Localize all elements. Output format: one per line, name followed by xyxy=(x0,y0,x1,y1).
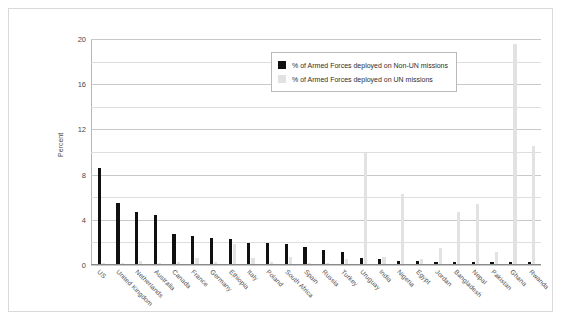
x-axis-label-cell: France xyxy=(186,267,205,321)
bar-un xyxy=(251,258,254,264)
bar-un xyxy=(102,263,105,264)
x-axis-label-cell: Ghana xyxy=(505,267,524,321)
x-axis-tick-label: Italy xyxy=(246,268,260,282)
x-axis-label-cell: Nepal xyxy=(467,267,486,321)
x-axis-tick-label: India xyxy=(378,268,393,283)
legend-item-un: % of Armed Forces deployed on UN mission… xyxy=(278,72,448,86)
x-axis-tick-label: US xyxy=(96,268,108,280)
x-axis-label-cell: Bangladesh xyxy=(448,267,467,321)
bar-non-un xyxy=(416,261,419,264)
bar-group xyxy=(111,39,130,264)
bar-un xyxy=(158,263,161,264)
x-axis-label-cell: US xyxy=(92,267,111,321)
bar-group xyxy=(503,39,522,264)
legend-swatch-un-icon xyxy=(278,75,286,83)
bar-non-un xyxy=(509,262,512,264)
bar-group xyxy=(167,39,186,264)
bar-un xyxy=(195,258,198,264)
bar-non-un xyxy=(98,168,101,264)
x-axis-label-cell: Turkey xyxy=(336,267,355,321)
bar-non-un xyxy=(116,203,119,264)
y-axis-tick-label: 16 xyxy=(78,80,86,89)
y-axis-tick-label: 8 xyxy=(82,170,86,179)
bar-group xyxy=(129,39,148,264)
bar-group xyxy=(92,39,111,264)
bar-un xyxy=(270,262,273,264)
bar-non-un xyxy=(341,252,344,264)
bar-un xyxy=(532,146,535,264)
bar-non-un xyxy=(472,262,475,264)
bar-un xyxy=(326,263,329,264)
bar-un xyxy=(382,257,385,264)
bar-group xyxy=(186,39,205,264)
bar-non-un xyxy=(266,243,269,264)
bar-non-un xyxy=(303,247,306,264)
bar-un xyxy=(121,263,124,264)
x-axis-label-cell: Canada xyxy=(167,267,186,321)
bar-un xyxy=(457,212,460,264)
bar-un xyxy=(139,261,142,264)
bar-non-un xyxy=(490,262,493,264)
y-axis-tick-label: 12 xyxy=(78,125,86,134)
bar-group xyxy=(485,39,504,264)
x-axis-label-cell: Spain xyxy=(298,267,317,321)
legend-label-un: % of Armed Forces deployed on UN mission… xyxy=(292,76,433,83)
bar-non-un xyxy=(322,250,325,264)
x-axis-label-cell: India xyxy=(373,267,392,321)
bar-group xyxy=(466,39,485,264)
bar-un xyxy=(289,257,292,264)
x-axis-label-cell: United Kingdom xyxy=(111,267,130,321)
bar-un xyxy=(401,194,404,264)
chart-frame: Percent 048121620 USUnited KingdomNether… xyxy=(8,8,553,312)
gridline xyxy=(91,265,541,266)
x-axis-label-cell: Russia xyxy=(317,267,336,321)
bar-group xyxy=(522,39,541,264)
bar-un xyxy=(364,153,367,264)
x-axis-label-cell: Ethiopia xyxy=(223,267,242,321)
bar-non-un xyxy=(229,239,232,264)
y-axis-tick-label: 4 xyxy=(82,215,86,224)
x-axis-label-cell: Uruguay xyxy=(355,267,374,321)
bar-non-un xyxy=(172,234,175,265)
x-axis-label-cell: Jordan xyxy=(430,267,449,321)
x-axis-label-cell: Netherlands xyxy=(130,267,149,321)
bar-non-un xyxy=(378,259,381,264)
x-axis-label-cell: Italy xyxy=(242,267,261,321)
x-axis-labels: USUnited KingdomNetherlandsAustraliaCana… xyxy=(92,267,542,321)
bar-non-un xyxy=(135,212,138,264)
bar-un xyxy=(177,262,180,264)
legend-swatch-non-un-icon xyxy=(278,61,286,69)
bar-un xyxy=(476,204,479,264)
legend-label-non-un: % of Armed Forces deployed on Non-UN mis… xyxy=(292,62,448,69)
x-axis-label-cell: Nigeria xyxy=(392,267,411,321)
y-axis-tick-label: 20 xyxy=(78,35,86,44)
bar-un xyxy=(420,259,423,264)
bar-group xyxy=(204,39,223,264)
y-axis-label: Percent xyxy=(57,133,64,157)
x-axis-label-cell: Rwanda xyxy=(523,267,542,321)
bar-non-un xyxy=(247,243,250,264)
x-axis-label-cell: Pakistan xyxy=(486,267,505,321)
chart-legend: % of Armed Forces deployed on Non-UN mis… xyxy=(271,52,457,92)
bar-non-un xyxy=(285,244,288,264)
y-axis-tick-label: 0 xyxy=(82,261,86,270)
bar-non-un xyxy=(528,262,531,264)
bar-non-un xyxy=(210,238,213,264)
bar-un xyxy=(439,248,442,264)
bar-group xyxy=(242,39,261,264)
bar-un xyxy=(214,262,217,264)
x-axis-label-cell: Australia xyxy=(148,267,167,321)
legend-item-non-un: % of Armed Forces deployed on Non-UN mis… xyxy=(278,58,448,72)
x-axis-label-cell: Poland xyxy=(261,267,280,321)
bar-un xyxy=(345,259,348,264)
bar-group xyxy=(148,39,167,264)
bar-un xyxy=(233,244,236,264)
bar-non-un xyxy=(397,261,400,264)
bar-un xyxy=(513,44,516,264)
x-axis-label-cell: South Africa xyxy=(280,267,299,321)
bar-non-un xyxy=(434,262,437,264)
bar-un xyxy=(308,263,311,264)
x-axis-tick-label: Rwanda xyxy=(528,268,550,290)
bar-non-un xyxy=(453,262,456,264)
bar-un xyxy=(495,252,498,264)
